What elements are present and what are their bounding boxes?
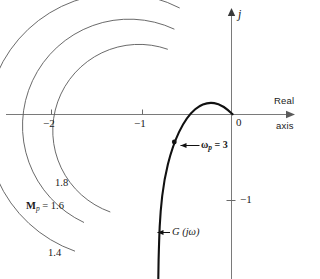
nyquist-figure: −2 −1 0 −1 j Real axis 1.8 Mp = 1.6 1.4 … [0,0,320,279]
origin-label: 0 [236,117,242,128]
mp-symbol: M [26,200,36,211]
mp-value: 1.6 [51,200,64,211]
m-circles-group [0,0,180,251]
imag-axis-label: j [238,8,241,20]
real-tick-label--2: −2 [43,118,55,129]
imag-tick-label--1: −1 [240,194,252,205]
nyquist-locus-group [158,103,232,279]
m-circle-label-1.4: 1.4 [48,248,61,259]
m-circle-label-1.8: 1.8 [55,178,68,189]
real-axis-label-line2: axis [276,121,294,131]
real-tick-label--1: −1 [134,118,146,129]
real-axis-label-line1: Real [274,96,294,106]
omega-p-marker-dot [172,140,177,145]
omega-p-leader [181,143,200,148]
plot-canvas [0,0,320,279]
omega-equals-value: = 3 [212,139,228,150]
real-axis-arrowhead [286,111,295,118]
imag-axis-arrowhead [228,8,235,16]
nyquist-locus-curve [158,103,232,279]
omega-p-label: ωp = 3 [201,140,228,152]
axes-group [6,8,295,279]
mp-equals: = [40,200,51,211]
m-circle-arc-1.4 [0,0,180,251]
m-circle-arc-1.8 [53,44,168,212]
g-jw-label: G (jω) [172,227,200,238]
mp-equals-label: Mp = 1.6 [26,201,64,213]
